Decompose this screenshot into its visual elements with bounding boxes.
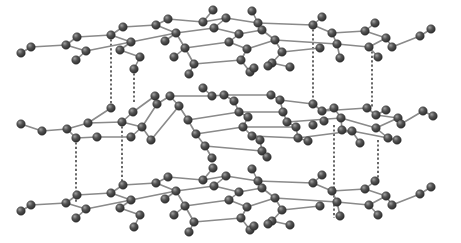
carbon-atom <box>371 177 380 186</box>
carbon-atom <box>147 136 156 145</box>
carbon-atom <box>199 18 208 27</box>
carbon-atom <box>388 201 397 210</box>
carbon-bond <box>123 25 156 27</box>
carbon-bond <box>280 100 313 104</box>
carbon-atom <box>258 184 267 193</box>
carbon-atom <box>130 223 139 232</box>
carbon-atom <box>336 54 345 63</box>
carbon-bond <box>151 106 179 140</box>
carbon-atom <box>239 123 248 132</box>
carbon-atom <box>175 102 184 111</box>
carbon-bond <box>392 36 420 47</box>
carbon-atom <box>136 211 145 220</box>
carbon-atom <box>278 48 287 57</box>
carbon-atom <box>371 19 380 28</box>
carbon-atom <box>309 21 318 30</box>
carbon-atom <box>127 38 136 47</box>
carbon-atom <box>107 104 116 113</box>
carbon-atom <box>333 198 342 207</box>
carbon-atom <box>316 202 325 211</box>
carbon-atom <box>166 92 175 101</box>
carbon-atom <box>382 106 391 115</box>
carbon-atom <box>172 187 181 196</box>
carbon-atom <box>256 136 265 145</box>
carbon-atom <box>271 36 280 45</box>
carbon-atom <box>348 127 357 136</box>
carbon-atom <box>230 97 239 106</box>
carbon-atom <box>209 164 218 173</box>
carbon-atom <box>316 44 325 53</box>
carbon-atom <box>309 121 318 130</box>
carbon-atom <box>208 92 217 101</box>
carbon-atom <box>172 29 181 38</box>
carbon-atom <box>361 185 370 194</box>
carbon-atom <box>416 190 425 199</box>
carbon-atom <box>220 91 229 100</box>
carbon-atom <box>416 32 425 41</box>
carbon-atom <box>248 7 257 16</box>
carbon-atom <box>222 172 231 181</box>
carbon-atom <box>201 142 210 151</box>
atoms <box>17 164 436 237</box>
carbon-atom <box>118 118 127 127</box>
carbon-atom <box>382 192 391 201</box>
carbon-atom <box>208 154 217 163</box>
carbon-atom <box>294 134 303 143</box>
carbon-atom <box>235 188 244 197</box>
carbon-atom <box>243 203 252 212</box>
top-layer <box>17 6 436 79</box>
carbon-atom <box>309 179 318 188</box>
carbon-atom <box>279 108 288 117</box>
carbon-atom <box>210 24 219 33</box>
carbon-bond <box>341 118 376 128</box>
carbon-atom <box>318 171 327 180</box>
carbon-atom <box>192 130 201 139</box>
carbon-bond <box>392 194 420 205</box>
carbon-bond <box>258 23 313 25</box>
carbon-atom <box>356 139 365 148</box>
carbon-atom <box>107 31 116 40</box>
carbon-atom <box>72 214 81 223</box>
carbon-bond <box>196 127 243 134</box>
carbon-atom <box>235 108 244 117</box>
carbon-atom <box>250 222 259 231</box>
carbon-atom <box>161 37 170 46</box>
carbon-atom <box>27 43 36 52</box>
carbon-atom <box>185 228 194 237</box>
carbon-bond <box>275 198 337 202</box>
carbon-bond <box>168 19 203 22</box>
carbon-atom <box>225 196 234 205</box>
carbon-atom <box>184 116 193 125</box>
carbon-atom <box>243 45 252 54</box>
bonds <box>21 88 433 158</box>
carbon-atom <box>374 53 383 62</box>
carbon-atom <box>181 44 190 53</box>
carbon-atom <box>309 100 318 109</box>
carbon-atom <box>72 134 81 143</box>
carbon-bond <box>77 35 111 37</box>
carbon-atom <box>263 153 272 162</box>
carbon-bond <box>226 176 258 181</box>
carbon-atom <box>384 134 393 143</box>
carbon-atom <box>82 205 91 214</box>
carbon-atom <box>38 127 47 136</box>
middle-layer <box>17 84 438 163</box>
carbon-atom <box>119 181 128 190</box>
carbon-atom <box>138 123 147 132</box>
carbon-atom <box>152 21 161 30</box>
carbon-atom <box>152 179 161 188</box>
graphene-layers <box>17 6 438 237</box>
carbon-atom <box>250 64 259 73</box>
graphite-diagram <box>0 0 461 243</box>
carbon-atom <box>271 194 280 203</box>
carbon-atom <box>318 107 327 116</box>
carbon-atom <box>151 92 160 101</box>
carbon-atom <box>190 60 199 69</box>
carbon-atom <box>382 34 391 43</box>
carbon-atom <box>304 137 313 146</box>
carbon-bond <box>168 177 203 180</box>
carbon-atom <box>397 120 406 129</box>
carbon-atom <box>170 211 179 220</box>
carbon-atom <box>388 43 397 52</box>
carbon-atom <box>372 111 381 120</box>
